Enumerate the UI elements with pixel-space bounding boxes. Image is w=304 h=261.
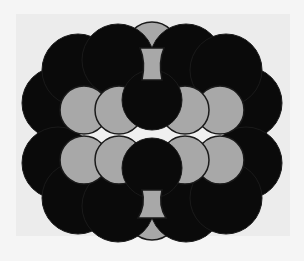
figure-background: [0, 0, 304, 261]
dark-sphere-center-lower: [122, 138, 182, 198]
light-sphere-top-neck: [140, 48, 164, 80]
sphere-packing-diagram: [0, 0, 304, 261]
